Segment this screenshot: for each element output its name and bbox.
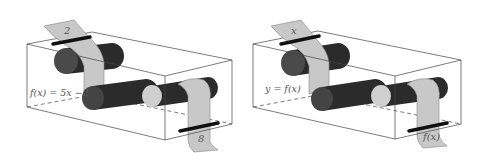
- function-machine-right: x f(x) y = f(x): [243, 0, 483, 162]
- output-label: f(x): [422, 131, 440, 142]
- input-label: x: [291, 25, 297, 36]
- input-label: 2: [63, 25, 70, 36]
- function-label: y = f(x): [264, 83, 301, 94]
- output-label: 8: [198, 133, 204, 144]
- function-machine-left: 2 8 f(x) = 5x −2: [0, 0, 240, 162]
- function-label: f(x) = 5x −2: [29, 87, 89, 98]
